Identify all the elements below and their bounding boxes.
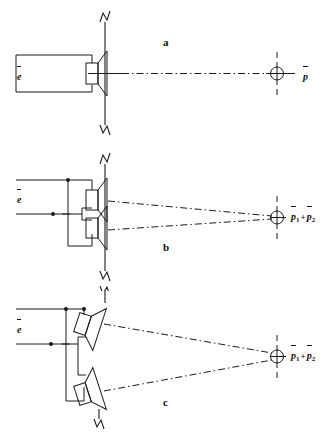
panel-c-output-label: p1+p2 [291, 346, 315, 363]
output-symbol-p2: p [307, 211, 312, 222]
output-subscript-2: 2 [312, 216, 316, 224]
input-symbol-e: e [17, 194, 21, 205]
output-operator: + [300, 351, 307, 361]
panel-letter-b: b [163, 242, 169, 253]
output-subscript-2: 2 [312, 355, 316, 363]
panel-a-drawing [0, 0, 332, 146]
panel-c: e c p1+p2 [0, 291, 332, 437]
output-symbol-p1: p [291, 350, 296, 361]
input-symbol-e: e [17, 324, 21, 335]
output-operator: + [300, 212, 307, 222]
panel-a-output-label: p [303, 67, 308, 83]
input-symbol-e: e [17, 71, 21, 82]
output-subscript-1: 1 [296, 216, 300, 224]
output-symbol-p2: p [307, 350, 312, 361]
panel-letter-a: a [163, 37, 169, 48]
output-symbol-p: p [303, 71, 308, 82]
panel-b: e b p1+p2 [0, 146, 332, 291]
panel-a-input-label: e [17, 67, 21, 83]
output-subscript-1: 1 [296, 355, 300, 363]
panel-c-input-label: e [17, 320, 21, 336]
panel-a: e a p [0, 0, 332, 146]
panel-b-input-label: e [17, 190, 21, 206]
panel-letter-c: c [163, 397, 168, 408]
panel-b-output-label: p1+p2 [291, 207, 315, 224]
output-symbol-p1: p [291, 211, 296, 222]
panel-c-drawing [0, 291, 332, 437]
panel-b-drawing [0, 146, 332, 291]
